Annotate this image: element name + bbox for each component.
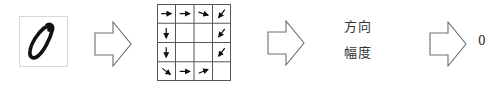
gradient-direction-grid [157, 4, 231, 81]
block-arrow-right-icon [429, 21, 467, 67]
block-arrow-right-icon [94, 21, 132, 67]
handwritten-zero-icon [20, 17, 67, 66]
input-digit-image [19, 16, 68, 67]
magnitude-label: 幅度 [344, 42, 372, 61]
direction-label: 方向 [344, 16, 372, 35]
output-label: 0 [478, 34, 486, 48]
block-arrow-right-icon [267, 20, 305, 66]
